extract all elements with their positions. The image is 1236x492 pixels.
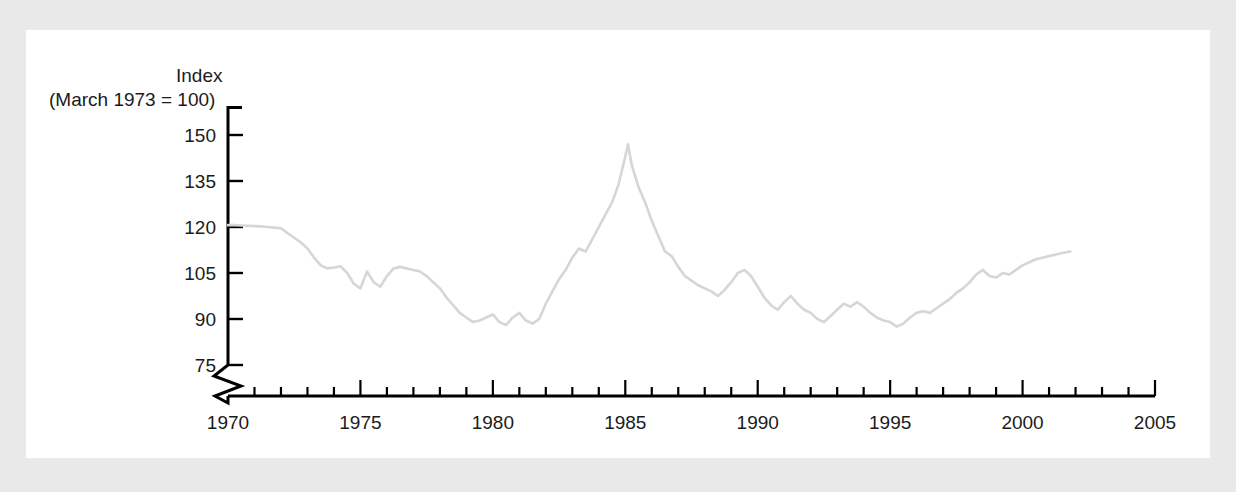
data-line-series-0: [228, 144, 1070, 326]
y-axis-tick-label: 150: [184, 125, 216, 146]
x-axis-tick-label: 1975: [339, 412, 381, 433]
y-axis-tick-label: 120: [184, 217, 216, 238]
line-chart-svg: 7590105120135150 19701975198019851990199…: [26, 30, 1210, 458]
x-axis-tick-label: 2005: [1134, 412, 1176, 433]
y-axis-tick-label: 135: [184, 171, 216, 192]
x-axis-tick-group: [254, 380, 1155, 396]
x-axis-tick-label: 1995: [869, 412, 911, 433]
x-axis-tick-label: 1985: [604, 412, 646, 433]
x-axis-label-group: 19701975198019851990199520002005: [207, 412, 1176, 433]
y-axis-line: [214, 108, 242, 403]
x-axis-tick-label: 2000: [1001, 412, 1043, 433]
chart-panel: Index (March 1973 = 100) 759010512013515…: [26, 30, 1210, 458]
y-axis-tick-label: 75: [195, 355, 216, 376]
y-axis-tick-group: 7590105120135150: [184, 125, 243, 376]
y-axis-tick-label: 90: [195, 309, 216, 330]
chart-area: Index (March 1973 = 100) 759010512013515…: [26, 30, 1210, 458]
y-axis-tick-label: 105: [184, 263, 216, 284]
x-axis-tick-label: 1970: [207, 412, 249, 433]
x-axis-tick-label: 1980: [472, 412, 514, 433]
x-axis-tick-label: 1990: [737, 412, 779, 433]
